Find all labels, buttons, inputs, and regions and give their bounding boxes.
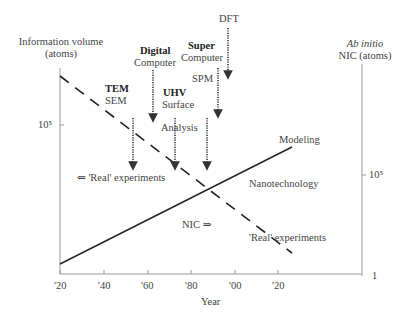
right-axis-tick-label: 10⁵ bbox=[369, 169, 383, 181]
super-label: Super bbox=[188, 40, 215, 52]
x-tick-1920: '20 bbox=[54, 280, 66, 292]
right-axis-title-line2: NIC (atoms) bbox=[335, 50, 395, 62]
x-tick-2000: '00 bbox=[229, 280, 241, 292]
super-computer-label: Computer bbox=[181, 52, 223, 64]
x-tick-2020: '20 bbox=[272, 280, 284, 292]
real-experiments-left-label: ⇐ 'Real' experiments bbox=[77, 172, 165, 184]
surface-label: Surface bbox=[162, 99, 194, 111]
x-tick-1960: '60 bbox=[141, 280, 153, 292]
nic-arrow-label: NIC ⇒ bbox=[182, 219, 212, 231]
nanotechnology-label: Nanotechnology bbox=[249, 178, 318, 190]
tem-label: TEM bbox=[105, 83, 129, 95]
right-axis-title: Ab initio NIC (atoms) bbox=[335, 38, 395, 62]
nic-modeling-line bbox=[60, 147, 292, 264]
sem-label: SEM bbox=[105, 95, 127, 107]
spm-label: SPM bbox=[192, 73, 213, 85]
left-axis-title: Information volume (atoms) bbox=[16, 36, 106, 60]
left-axis-tick-label: 10⁵ bbox=[38, 119, 52, 131]
digital-label: Digital bbox=[140, 45, 170, 57]
analysis-label: Analysis bbox=[161, 122, 198, 134]
dft-label: DFT bbox=[219, 13, 239, 25]
x-axis-ticks bbox=[60, 270, 278, 274]
x-axis-title: Year bbox=[201, 296, 220, 308]
digital-computer-label: Computer bbox=[134, 57, 176, 69]
modeling-label: Modeling bbox=[279, 134, 320, 146]
left-axis-title-line1: Information volume bbox=[16, 36, 106, 48]
left-axis-title-line2: (atoms) bbox=[16, 48, 106, 60]
x-tick-1980: '80 bbox=[185, 280, 197, 292]
uhv-label: UHV bbox=[163, 87, 186, 99]
right-axis-bottom-label: 1 bbox=[372, 270, 377, 282]
x-tick-1940: '40 bbox=[98, 280, 110, 292]
right-axis-title-line1: Ab initio bbox=[335, 38, 395, 50]
real-experiments-right-label: 'Real' experiments bbox=[249, 232, 326, 244]
